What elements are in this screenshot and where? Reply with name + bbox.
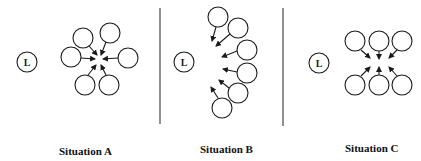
agent-circle xyxy=(237,40,257,60)
situation-c-diagram xyxy=(309,31,412,95)
situation-a-label: Situation A xyxy=(59,145,112,157)
agent-circle xyxy=(345,75,365,95)
leader-label-b: L xyxy=(181,57,188,68)
agent-circle xyxy=(392,75,412,95)
agent-circle xyxy=(212,98,232,118)
agent-circle xyxy=(100,23,120,43)
agent-circle xyxy=(228,18,248,38)
situation-a-diagram xyxy=(17,23,138,95)
situation-b-label: Situation B xyxy=(200,143,253,155)
agent-circle xyxy=(237,63,257,83)
agent-circle xyxy=(345,31,365,51)
agent-circle xyxy=(392,31,412,51)
agent-circle xyxy=(228,83,248,103)
agent-circle xyxy=(73,28,93,48)
agent-circle xyxy=(118,48,138,68)
agent-circle xyxy=(75,75,95,95)
agent-circle xyxy=(369,31,389,51)
leader-label-c: L xyxy=(316,58,323,69)
agent-circle xyxy=(61,47,81,67)
leader-label-a: L xyxy=(24,57,31,68)
situation-c-label: Situation C xyxy=(345,142,399,154)
situations-diagram: L L L xyxy=(0,0,421,161)
agent-circle xyxy=(369,75,389,95)
agent-circle xyxy=(208,7,228,27)
agent-circle xyxy=(99,75,119,95)
